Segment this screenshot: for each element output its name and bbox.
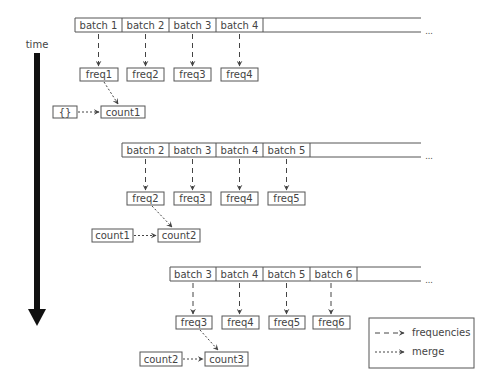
batch-cell: batch 5	[268, 145, 306, 156]
count-label: count1	[106, 107, 141, 118]
batch-cell: batch 4	[221, 269, 259, 280]
sliding-window-diagram: time batch 1 batch 2 batch 3 batch 4 ...	[0, 0, 499, 388]
count-label: count3	[209, 354, 244, 365]
freq-label: freq4	[226, 193, 252, 204]
frequency-arrows	[193, 283, 331, 314]
legend: frequencies merge	[369, 318, 474, 368]
freq-label: freq5	[273, 193, 299, 204]
prev-count-label: count1	[95, 230, 130, 241]
legend-frequencies-label: frequencies	[412, 327, 470, 338]
batch-cell: batch 5	[268, 269, 306, 280]
batch-strip-3: batch 3 batch 4 batch 5 batch 6 ...	[170, 267, 433, 285]
batch-cell: batch 6	[315, 269, 353, 280]
freq-label: freq3	[181, 317, 207, 328]
batch-cell: batch 3	[174, 145, 212, 156]
row-2: batch 2 batch 3 batch 4 batch 5 ... freq…	[92, 143, 433, 242]
freq-label: freq3	[179, 193, 205, 204]
prev-count-label: count2	[144, 354, 179, 365]
batch-cell: batch 4	[221, 20, 259, 31]
ellipsis: ...	[425, 27, 433, 36]
ellipsis: ...	[425, 276, 433, 285]
merge-arrow	[200, 330, 218, 350]
freq-label: freq4	[227, 317, 253, 328]
freq-label: freq4	[226, 69, 252, 80]
legend-merge-label: merge	[412, 346, 444, 357]
time-arrow-head-icon	[28, 309, 46, 326]
freq-label: freq1	[86, 69, 112, 80]
merge-arrow	[152, 206, 172, 227]
time-label: time	[26, 39, 49, 50]
batch-strip-1: batch 1 batch 2 batch 3 batch 4 ...	[75, 18, 433, 36]
batch-strip-2: batch 2 batch 3 batch 4 batch 5 ...	[122, 143, 433, 161]
merge-arrow	[104, 82, 118, 104]
batch-cell: batch 2	[127, 20, 165, 31]
batch-cell: batch 3	[174, 20, 212, 31]
freq-label: freq3	[179, 69, 205, 80]
ellipsis: ...	[425, 152, 433, 161]
time-axis: time	[26, 39, 49, 326]
frequency-arrows	[146, 159, 287, 190]
freq-label: freq2	[132, 193, 158, 204]
batch-cell: batch 3	[174, 269, 212, 280]
row-1: batch 1 batch 2 batch 3 batch 4 ... freq…	[53, 18, 433, 118]
freq-label: freq2	[132, 69, 158, 80]
frequency-arrows	[99, 34, 240, 66]
batch-cell: batch 1	[80, 20, 118, 31]
count-label: count2	[162, 230, 197, 241]
freq-label: freq6	[318, 317, 344, 328]
freq-label: freq5	[274, 317, 300, 328]
batch-cell: batch 2	[127, 145, 165, 156]
prev-count-label: {}	[59, 107, 72, 118]
batch-cell: batch 4	[221, 145, 259, 156]
